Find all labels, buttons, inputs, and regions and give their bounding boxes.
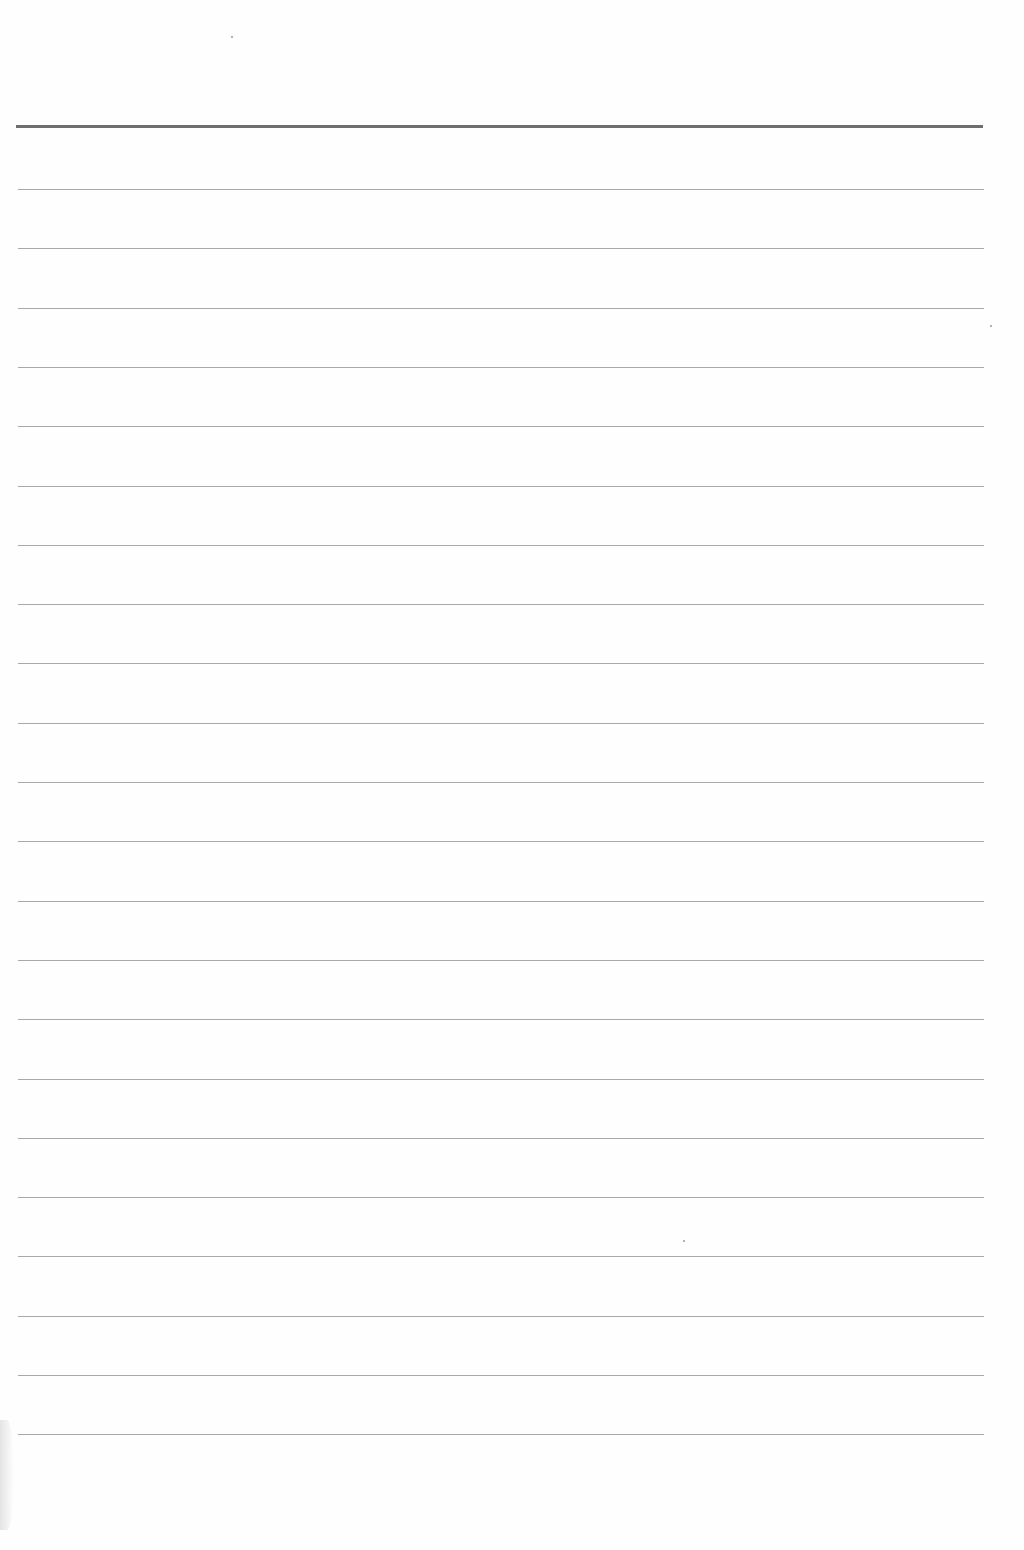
rule-line: [18, 901, 984, 902]
rule-line: [18, 1138, 984, 1139]
rule-line: [18, 841, 984, 842]
rule-line: [18, 1375, 984, 1376]
rule-line: [18, 1256, 984, 1257]
rule-line: [18, 723, 984, 724]
rule-line: [18, 782, 984, 783]
rule-line: [18, 189, 984, 190]
rule-line: [18, 1197, 984, 1198]
rule-line: [18, 545, 984, 546]
rule-line: [18, 308, 984, 309]
speck: [231, 36, 233, 38]
rule-line: [18, 663, 984, 664]
rule-line: [18, 1019, 984, 1020]
rule-line: [18, 426, 984, 427]
rule-line: [18, 1079, 984, 1080]
header-rule-line: [16, 125, 983, 128]
speck: [990, 325, 992, 327]
rule-line: [18, 248, 984, 249]
page-edge-shadow: [0, 1420, 14, 1530]
rule-line: [18, 1316, 984, 1317]
rule-line: [18, 486, 984, 487]
ruled-paper-page: [0, 0, 1024, 1550]
rule-line: [18, 367, 984, 368]
rule-line: [18, 604, 984, 605]
rule-line: [18, 1434, 984, 1435]
rule-line: [18, 960, 984, 961]
speck: [683, 1240, 685, 1242]
